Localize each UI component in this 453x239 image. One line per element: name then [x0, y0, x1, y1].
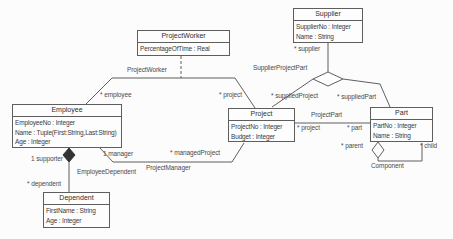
association-name-component: Component [371, 162, 404, 169]
class-attributes: EmployeeNo : Integer Name : Tuple(First:… [13, 117, 121, 147]
role-label-suppliedproject: * suppliedProject [271, 92, 318, 99]
class-attribute: FirstName : String [44, 206, 109, 216]
class-employee: Employee EmployeeNo : Integer Name : Tup… [12, 104, 122, 148]
association-name-projectworker: ProjectWorker [127, 66, 167, 73]
class-project: Project ProjectNo : Integer Budget : Int… [228, 108, 295, 142]
class-title: Employee [13, 105, 121, 117]
class-attribute: SupplierNo : Integer [294, 22, 362, 32]
association-name-projectmanager: ProjectManager [146, 164, 190, 171]
class-attributes: FirstName : String Age : Integer [44, 205, 109, 225]
association-name-projectpart: ProjectPart [311, 111, 342, 118]
role-label-project-mid: * project [297, 124, 320, 131]
class-attribute: Name : Tuple(First:String,Last:String) [13, 128, 121, 138]
role-label-part: * part [347, 124, 362, 131]
class-attributes: SupplierNo : Integer Name : String [294, 21, 362, 41]
class-title: Supplier [294, 9, 362, 21]
composition-diamond-icon [63, 148, 75, 162]
ternary-association-diamond [313, 72, 343, 86]
role-label-dependent: * dependent [27, 180, 61, 187]
role-label-managedproject: * managedProject [170, 149, 220, 156]
class-attributes: ProjectNo : Integer Budget : Integer [229, 121, 294, 141]
class-attribute: Age : Integer [13, 137, 121, 147]
class-supplier: Supplier SupplierNo : Integer Name : Str… [293, 8, 363, 43]
role-label-child: * child [420, 142, 437, 149]
association-name-employeedependent: EmployeeDependent [77, 168, 136, 175]
class-attribute: ProjectNo : Integer [229, 122, 294, 132]
class-attribute: Name : String [371, 131, 432, 141]
class-attributes: PartNo : Integer Name : String [371, 120, 432, 140]
class-attribute: PercentageOfTime : Real [138, 44, 229, 54]
role-label-project-top: * project [219, 91, 242, 98]
class-title: Dependent [44, 193, 109, 205]
class-title: Part [371, 108, 432, 120]
role-label-parent: * parent [341, 142, 363, 149]
class-attribute: EmployeeNo : Integer [13, 118, 121, 128]
aggregation-diamond-icon [372, 142, 384, 158]
class-part: Part PartNo : Integer Name : String [370, 107, 433, 142]
uml-class-diagram: ProjectWorker PercentageOfTime : Real Su… [0, 0, 453, 239]
role-label-suppliedpart: * suppliedPart [337, 93, 376, 100]
class-projectworker: ProjectWorker PercentageOfTime : Real [137, 30, 230, 56]
role-label-manager: 1 manager [103, 150, 133, 157]
role-label-supplier: * supplier [294, 45, 320, 52]
class-attribute: Budget : Integer [229, 132, 294, 142]
role-label-employee: * employee [100, 91, 132, 98]
association-name-supplierprojectpart: SupplierProjectPart [253, 64, 307, 71]
class-attributes: PercentageOfTime : Real [138, 43, 229, 54]
class-title: Project [229, 109, 294, 121]
class-dependent: Dependent FirstName : String Age : Integ… [43, 192, 110, 228]
association-component-loop [378, 143, 422, 161]
class-title: ProjectWorker [138, 31, 229, 43]
role-label-supporter: 1 supporter [31, 155, 63, 162]
class-attribute: PartNo : Integer [371, 121, 432, 131]
class-attribute: Name : String [294, 32, 362, 42]
class-attribute: Age : Integer [44, 216, 109, 226]
